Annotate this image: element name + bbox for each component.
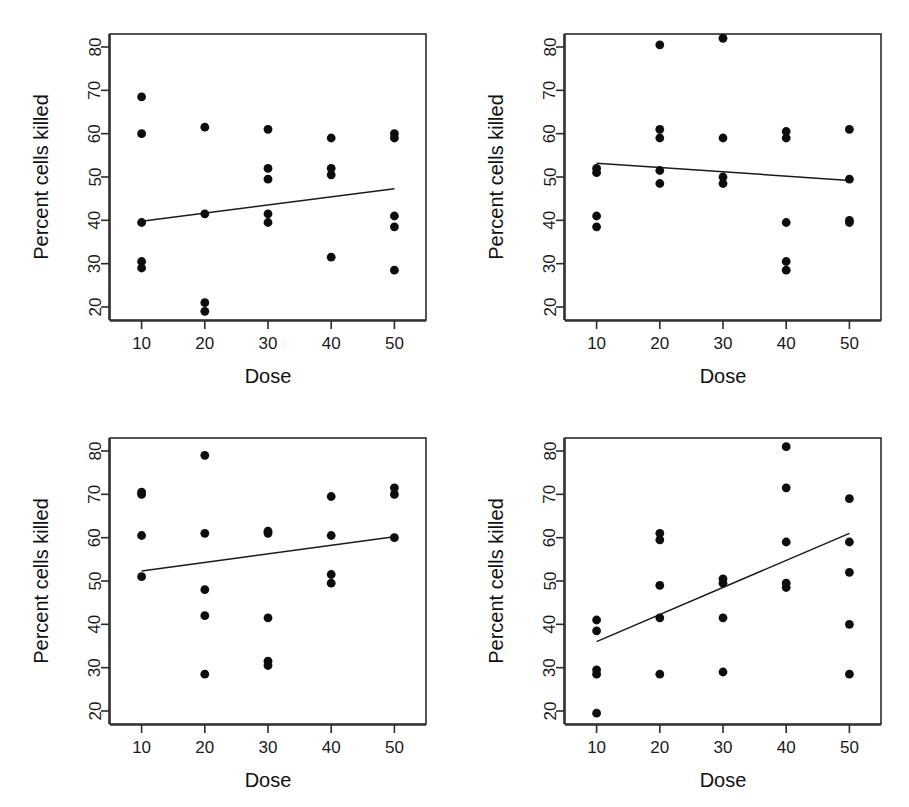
data-point	[845, 175, 854, 184]
y-tick-label: 20	[86, 702, 105, 721]
data-point	[264, 218, 273, 227]
data-point	[200, 585, 209, 594]
x-tick-label: 50	[840, 738, 859, 757]
y-tick-label: 50	[541, 168, 560, 187]
data-point	[592, 709, 601, 718]
x-tick-label: 50	[385, 738, 404, 757]
panel-top-right: 203040506070801020304050DosePercent cell…	[455, 0, 909, 404]
y-tick-label: 30	[541, 658, 560, 677]
data-point	[719, 134, 728, 143]
data-point	[390, 212, 399, 221]
data-point	[264, 613, 273, 622]
data-point	[327, 170, 336, 179]
data-point	[137, 531, 146, 540]
data-point	[845, 670, 854, 679]
data-point	[264, 164, 273, 173]
data-point	[327, 579, 336, 588]
y-tick-label: 50	[86, 168, 105, 187]
data-point	[782, 257, 791, 266]
y-axis-label: Percent cells killed	[30, 94, 52, 260]
data-point	[782, 483, 791, 492]
data-point	[200, 307, 209, 316]
y-tick-label: 60	[86, 528, 105, 547]
x-tick-label: 10	[587, 738, 606, 757]
data-point	[782, 538, 791, 547]
data-point	[719, 613, 728, 622]
data-point	[137, 218, 146, 227]
data-point	[390, 222, 399, 231]
data-point	[719, 34, 728, 43]
data-point	[782, 134, 791, 143]
y-tick-label: 40	[541, 211, 560, 230]
data-point	[390, 134, 399, 143]
data-point	[592, 616, 601, 625]
data-point	[592, 670, 601, 679]
y-tick-label: 80	[86, 38, 105, 57]
data-point	[782, 583, 791, 592]
data-point	[327, 253, 336, 262]
y-tick-label: 40	[86, 211, 105, 230]
y-tick-label: 50	[541, 572, 560, 591]
data-point	[264, 661, 273, 670]
x-tick-label: 10	[132, 334, 151, 353]
panel-bottom-left-canvas: 203040506070801020304050DosePercent cell…	[0, 404, 454, 807]
x-tick-label: 20	[195, 334, 214, 353]
y-tick-label: 70	[541, 81, 560, 100]
data-point	[655, 134, 664, 143]
y-tick-label: 70	[86, 81, 105, 100]
plot-frame	[110, 438, 426, 724]
data-point	[655, 40, 664, 49]
data-point	[264, 175, 273, 184]
y-axis-label: Percent cells killed	[485, 498, 507, 664]
x-tick-label: 50	[385, 334, 404, 353]
x-tick-label: 20	[650, 334, 669, 353]
data-point	[655, 166, 664, 175]
x-tick-label: 50	[840, 334, 859, 353]
data-point	[137, 490, 146, 499]
data-point	[845, 125, 854, 134]
data-point	[137, 572, 146, 581]
data-point	[592, 212, 601, 221]
x-axis-label: Dose	[700, 769, 747, 791]
data-point	[390, 533, 399, 542]
data-point	[200, 298, 209, 307]
scatter-plot-matrix: 203040506070801020304050DosePercent cell…	[0, 0, 909, 807]
data-point	[390, 266, 399, 275]
data-point	[845, 494, 854, 503]
data-point	[327, 570, 336, 579]
data-point	[200, 529, 209, 538]
x-tick-label: 40	[322, 738, 341, 757]
x-axis-label: Dose	[245, 769, 292, 791]
x-tick-label: 30	[259, 334, 278, 353]
y-tick-label: 20	[541, 702, 560, 721]
data-point	[655, 670, 664, 679]
y-tick-label: 80	[541, 38, 560, 57]
panel-top-left-canvas: 203040506070801020304050DosePercent cell…	[0, 0, 454, 404]
x-tick-label: 40	[777, 334, 796, 353]
x-tick-label: 30	[259, 738, 278, 757]
x-tick-label: 10	[587, 334, 606, 353]
panel-bottom-right-canvas: 203040506070801020304050DosePercent cell…	[455, 404, 909, 807]
data-point	[200, 123, 209, 132]
data-points	[137, 451, 399, 679]
data-point	[137, 264, 146, 273]
y-tick-label: 70	[541, 485, 560, 504]
y-tick-label: 40	[541, 615, 560, 634]
y-tick-label: 30	[541, 254, 560, 273]
regression-line	[142, 537, 395, 571]
x-tick-label: 40	[777, 738, 796, 757]
x-axis-label: Dose	[245, 365, 292, 387]
data-point	[390, 490, 399, 499]
data-point	[655, 613, 664, 622]
y-tick-label: 60	[86, 124, 105, 143]
y-tick-label: 70	[86, 485, 105, 504]
data-point	[592, 626, 601, 635]
y-tick-label: 60	[541, 124, 560, 143]
data-point	[200, 209, 209, 218]
data-point	[719, 179, 728, 188]
x-tick-label: 30	[714, 334, 733, 353]
y-tick-label: 60	[541, 528, 560, 547]
y-tick-label: 50	[86, 572, 105, 591]
data-point	[137, 129, 146, 138]
data-point	[200, 670, 209, 679]
